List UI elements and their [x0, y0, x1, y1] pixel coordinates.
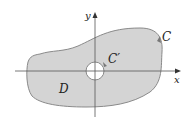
y-axis-arrow-icon — [93, 12, 98, 18]
label-y: y — [84, 10, 91, 21]
label-d: D — [58, 82, 69, 96]
label-c: C — [162, 30, 171, 44]
label-x: x — [174, 74, 180, 85]
label-c-prime: C′ — [108, 52, 120, 66]
diagram-canvas: C C′ D y x — [0, 0, 191, 124]
x-axis-arrow-icon — [175, 69, 181, 74]
